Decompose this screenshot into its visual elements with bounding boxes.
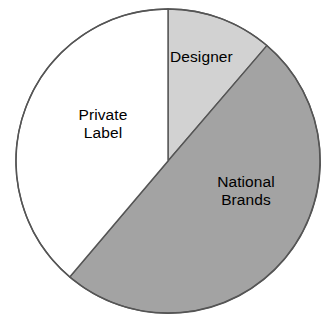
pie-chart-canvas	[0, 0, 334, 318]
pie-slices	[16, 9, 320, 313]
pie-chart: Private Label Designer National Brands	[0, 0, 334, 318]
